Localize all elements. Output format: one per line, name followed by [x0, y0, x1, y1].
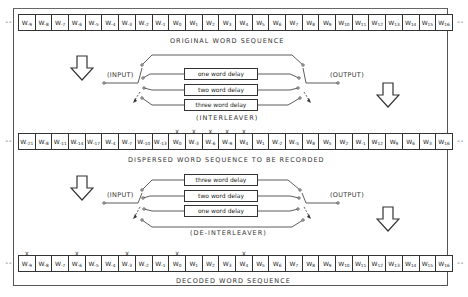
continuation-right: -- — [453, 133, 468, 150]
word-index: 16 — [444, 141, 449, 146]
word-index: -4 — [111, 263, 115, 268]
interleaver-delay-box: three word delay — [184, 99, 258, 111]
word-index: -13 — [160, 141, 167, 146]
word-index: -11 — [60, 141, 67, 146]
deinterleaver-caption: (DE-INTERLEAVER) — [190, 229, 267, 237]
error-mark: X — [169, 246, 185, 261]
word-index: -5 — [295, 141, 299, 146]
word-cell: W-21 — [18, 134, 35, 149]
word-cell: W0X — [168, 256, 185, 271]
word-index: -2 — [278, 141, 282, 146]
word-cell: W16 — [435, 134, 453, 149]
word-cell: W-8 — [35, 134, 52, 149]
word-index: -17 — [93, 141, 100, 146]
word-cell: W-1 — [152, 256, 169, 271]
dispersed-sequence-label: DISPERSED WORD SEQUENCE TO BE RECORDED — [128, 156, 325, 164]
word-cell: W-4 — [101, 134, 118, 149]
decoded-sequence: -- W-9XW-8W-7W-6XW-5W-4W-3XW-2W-1W0XW1W2… — [0, 255, 468, 272]
word-cell: W9 — [318, 256, 335, 271]
word-index: -9 — [28, 263, 32, 268]
word-cell: W1 — [185, 256, 202, 271]
word-cell: W4X — [235, 134, 252, 149]
word-index: 3 — [429, 141, 432, 146]
word-cell: W2 — [335, 134, 352, 149]
error-mark: X — [186, 124, 202, 139]
word-index: 3 — [229, 263, 232, 268]
error-mark: X — [119, 246, 135, 261]
word-cell: W12 — [368, 134, 385, 149]
word-cell: W-8 — [35, 256, 52, 271]
error-mark: X — [69, 246, 85, 261]
word-index: -8 — [44, 141, 48, 146]
word-index: 8 — [312, 263, 315, 268]
word-index: -14 — [76, 141, 83, 146]
word-cell: W14 — [402, 256, 419, 271]
continuation-right: -- — [453, 255, 468, 272]
deinterleaver-delay-box: two word delay — [184, 190, 258, 202]
deinterleaver-delay-box: one word delay — [184, 205, 258, 217]
word-cell: W1 — [252, 134, 269, 149]
word-cell: W-9X — [218, 134, 235, 149]
word-index: 5 — [329, 141, 332, 146]
deinterleaver-output-label: (OUTPUT) — [330, 191, 364, 199]
word-index: 13 — [394, 263, 399, 268]
word-cell: W-14 — [68, 134, 85, 149]
dispersed-cells: W-21W-8W-11W-14W-17W-4W-7W-10W-13W0XW-3X… — [18, 133, 453, 150]
word-cell: W8 — [302, 134, 319, 149]
continuation-left: -- — [0, 133, 18, 150]
interleaver-input-label: (INPUT) — [107, 71, 134, 79]
dispersed-sequence: -- W-21W-8W-11W-14W-17W-4W-7W-10W-13W0XW… — [0, 133, 468, 150]
word-cell: W-5 — [285, 134, 302, 149]
word-index: 0 — [179, 141, 182, 146]
word-cell: W0X — [168, 134, 185, 149]
word-index: -7 — [128, 141, 132, 146]
word-cell: W5 — [252, 256, 269, 271]
word-index: 15 — [428, 263, 433, 268]
decoded-sequence-label: DECODED WORD SEQUENCE — [176, 277, 291, 285]
word-cell: W8 — [302, 256, 319, 271]
word-index: 11 — [361, 263, 366, 268]
word-cell: W4X — [235, 256, 252, 271]
word-index: 12 — [378, 263, 383, 268]
word-cell: W3 — [218, 256, 235, 271]
word-cell: W5 — [318, 134, 335, 149]
word-index: 16 — [444, 263, 449, 268]
word-cell: W13 — [385, 256, 402, 271]
word-index: 2 — [346, 141, 349, 146]
word-index: -10 — [143, 141, 150, 146]
deinterleaver-delay-box: three word delay — [184, 174, 258, 186]
decoded-cells: W-9XW-8W-7W-6XW-5W-4W-3XW-2W-1W0XW1W2W3W… — [18, 255, 453, 272]
word-index: -1 — [361, 141, 365, 146]
word-cell: W-13 — [152, 134, 169, 149]
interleaver-caption: (INTERLEAVER) — [196, 114, 258, 122]
word-cell: W11 — [352, 256, 369, 271]
word-index: -4 — [111, 141, 115, 146]
word-cell: W-2 — [268, 134, 285, 149]
word-index: -6 — [211, 141, 215, 146]
word-cell: W10 — [335, 256, 352, 271]
word-index: -2 — [144, 263, 148, 268]
word-index: 9 — [329, 263, 332, 268]
word-index: -1 — [161, 263, 165, 268]
word-cell: W15 — [419, 256, 436, 271]
word-cell: W6 — [402, 134, 419, 149]
word-cell: W2 — [202, 256, 219, 271]
word-cell: W3 — [419, 134, 436, 149]
word-cell: W-1 — [352, 134, 369, 149]
word-index: -3 — [128, 263, 132, 268]
word-index: 5 — [262, 263, 265, 268]
word-index: 4 — [245, 263, 248, 268]
word-cell: W-11 — [51, 134, 68, 149]
error-mark: X — [219, 124, 235, 139]
interleaver-output-label: (OUTPUT) — [330, 71, 364, 79]
word-index: -8 — [44, 263, 48, 268]
word-index: 7 — [295, 263, 298, 268]
error-mark: X — [169, 124, 185, 139]
word-index: 6 — [279, 263, 282, 268]
word-cell: W-10 — [135, 134, 152, 149]
word-cell: W-6X — [202, 134, 219, 149]
word-cell: W-5 — [85, 256, 102, 271]
word-cell: W-17 — [85, 134, 102, 149]
word-index: -9 — [228, 141, 232, 146]
word-index: 6 — [412, 141, 415, 146]
